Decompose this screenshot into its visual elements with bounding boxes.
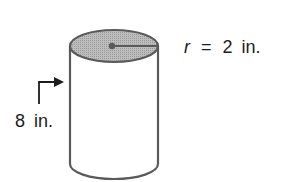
height-arrow-icon — [39, 77, 64, 104]
radius-label: r = 2 in. — [184, 37, 261, 57]
cylinder-body — [70, 46, 158, 179]
cylinder-diagram: r = 2 in. 8 in. — [0, 0, 281, 182]
diagram-svg: r = 2 in. 8 in. — [0, 0, 281, 182]
center-point — [109, 43, 115, 49]
height-label: 8 in. — [15, 111, 53, 131]
